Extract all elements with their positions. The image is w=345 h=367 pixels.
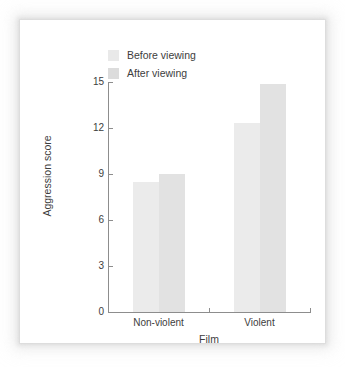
plot-area: Before viewing After viewing 03691215 No… [20,20,325,343]
bar-non-violent-before-viewing [133,182,159,312]
y-axis-tick [109,312,113,313]
y-axis-tick [109,220,113,221]
y-axis-line [108,82,109,313]
x-axis-category-label: Violent [210,317,310,329]
y-axis-tick-label-text: 0 [76,307,104,317]
y-axis-tick-label-text: 6 [76,215,104,225]
bar-violent-after-viewing [260,84,286,312]
x-axis-tick [108,308,109,313]
y-axis-tick [109,174,113,175]
y-axis-tick-label-text: 9 [76,169,104,179]
bar-non-violent-after-viewing [159,174,185,312]
y-axis-tick-label: 6 [74,215,104,225]
y-axis-tick-label: 9 [74,169,104,179]
y-axis-tick-label: 12 [74,123,104,133]
x-axis-tick [209,308,210,313]
y-axis-tick-label: 3 [74,261,104,271]
y-axis-tick [109,82,113,83]
x-axis-title: Film [108,333,310,345]
y-axis-tick-label: 15 [74,77,104,87]
y-axis-tick-label-text: 15 [76,77,104,87]
y-axis-title: Aggression score [41,121,53,231]
chart-figure-panel: Before viewing After viewing 03691215 No… [20,20,325,343]
x-axis-category-label: Non-violent [109,317,209,329]
bar-violent-before-viewing [234,123,260,312]
y-axis-tick [109,266,113,267]
x-axis-tick [310,308,311,313]
y-axis-tick [109,128,113,129]
bars-layer [20,20,325,312]
y-axis-tick-label-text: 3 [76,261,104,271]
y-axis-tick-label-text: 12 [76,123,104,133]
y-axis-tick-label: 0 [74,307,104,317]
